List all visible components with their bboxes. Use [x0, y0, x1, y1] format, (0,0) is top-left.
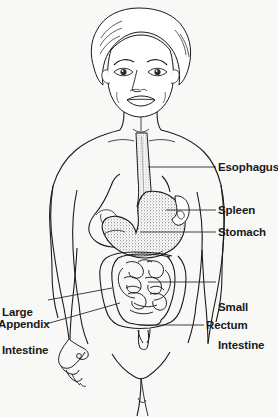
label-large-intestine-line2: Intestine	[2, 344, 48, 357]
small-intestine-organ	[118, 260, 170, 314]
rectum-organ	[138, 330, 148, 350]
anatomy-diagram-page: Esophagus Spleen Stomach Small Intestine…	[0, 0, 278, 417]
label-large-intestine: Large Intestine	[2, 281, 48, 381]
left-hand	[59, 339, 89, 386]
label-stomach: Stomach	[218, 226, 266, 239]
label-appendix: Appendix	[0, 318, 50, 331]
label-spleen: Spleen	[218, 204, 255, 217]
label-rectum: Rectum	[206, 319, 248, 332]
stomach-organ	[102, 191, 185, 258]
label-small-intestine-line2: Intestine	[218, 339, 264, 352]
label-large-intestine-line1: Large	[2, 306, 48, 319]
label-esophagus: Esophagus	[218, 161, 278, 174]
label-small-intestine-line1: Small	[218, 301, 264, 314]
large-intestine-organ	[100, 252, 186, 343]
